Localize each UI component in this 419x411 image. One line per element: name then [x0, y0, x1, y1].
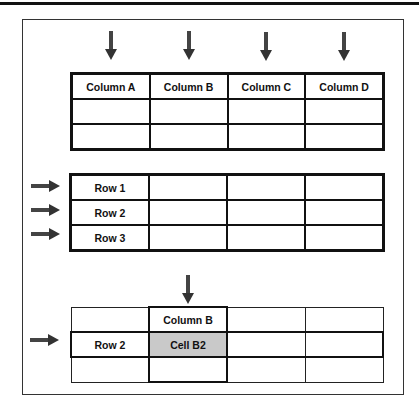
down-arrow-icon — [182, 31, 196, 61]
table-row — [71, 357, 383, 382]
empty-cell — [149, 200, 227, 225]
column-a-header: Column A — [72, 74, 150, 99]
empty-cell — [150, 124, 228, 149]
columns-table: Column A Column B Column C Column D — [71, 73, 384, 150]
table-row — [72, 124, 383, 149]
empty-cell — [305, 175, 383, 200]
column-b-header: Column B — [150, 74, 228, 99]
empty-cell — [228, 99, 306, 124]
right-arrow-icon — [31, 204, 61, 216]
empty-cell — [149, 175, 227, 200]
down-arrow-icon — [181, 275, 195, 305]
empty-cell — [71, 307, 149, 332]
row-2-header: Row 2 — [71, 200, 149, 225]
empty-cell — [227, 332, 305, 357]
selected-row: Row 2 Cell B2 — [71, 332, 383, 357]
empty-cell — [72, 99, 150, 124]
empty-cell — [227, 357, 305, 382]
right-arrow-icon — [30, 334, 60, 346]
header-row: Column A Column B Column C Column D — [72, 74, 383, 99]
empty-cell — [305, 200, 383, 225]
highlighted-cell-b2: Cell B2 — [149, 332, 227, 357]
empty-cell — [227, 225, 305, 250]
row-3-header: Row 3 — [71, 225, 149, 250]
column-c-header: Column C — [228, 74, 306, 99]
empty-cell — [227, 175, 305, 200]
empty-cell — [227, 307, 305, 332]
empty-cell — [305, 99, 383, 124]
column-d-header: Column D — [305, 74, 383, 99]
row-2-header: Row 2 — [71, 332, 149, 357]
empty-cell — [305, 307, 383, 332]
row-1-header: Row 1 — [71, 175, 149, 200]
empty-cell — [305, 225, 383, 250]
table-row: Column B — [71, 307, 383, 332]
right-arrow-icon — [31, 228, 61, 240]
empty-cell — [305, 124, 383, 149]
empty-cell — [228, 124, 306, 149]
empty-cell — [71, 357, 149, 382]
table-row: Row 1 — [71, 175, 383, 200]
rows-table: Row 1 Row 2 Row 3 — [70, 174, 384, 251]
table-row: Row 3 — [71, 225, 383, 250]
table-row: Row 2 — [71, 200, 383, 225]
empty-cell — [149, 225, 227, 250]
empty-cell — [305, 332, 383, 357]
column-b-header: Column B — [149, 307, 227, 332]
empty-cell — [150, 99, 228, 124]
down-arrow-icon — [337, 32, 351, 62]
down-arrow-icon — [259, 32, 273, 62]
empty-cell — [149, 357, 227, 382]
cell-table: Column B Row 2 Cell B2 — [70, 306, 384, 383]
empty-cell — [72, 124, 150, 149]
top-rule — [0, 2, 419, 5]
empty-cell — [227, 200, 305, 225]
right-arrow-icon — [31, 180, 61, 192]
down-arrow-icon — [104, 31, 118, 61]
empty-cell — [305, 357, 383, 382]
table-row — [72, 99, 383, 124]
